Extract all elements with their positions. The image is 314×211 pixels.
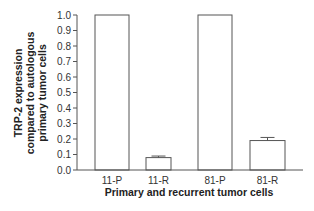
bar-11-P xyxy=(95,15,129,170)
x-axis-title: Primary and recurrent tumor cells xyxy=(105,186,274,198)
x-tick-label: 11-R xyxy=(148,175,169,186)
y-axis: 0.00.10.20.30.40.50.60.70.80.91.0 xyxy=(57,10,77,176)
bar-81-P xyxy=(198,15,232,170)
y-tick-label: 0.5 xyxy=(57,87,71,98)
x-axis: 11-P11-R81-P81-R xyxy=(77,170,303,186)
y-tick-label: 0.3 xyxy=(57,118,71,129)
y-tick-label: 0.2 xyxy=(57,134,71,145)
x-tick-label: 81-R xyxy=(257,175,279,186)
y-tick-label: 0.6 xyxy=(57,72,71,83)
y-axis-title-line: compared to autologous xyxy=(24,32,36,155)
y-tick-label: 1.0 xyxy=(57,10,71,21)
y-tick-label: 0.4 xyxy=(57,103,71,114)
x-tick-label: 11-P xyxy=(102,175,123,186)
y-axis-title-line: primary tumor cells xyxy=(36,44,48,142)
y-tick-label: 0.1 xyxy=(57,149,71,160)
y-tick-label: 0.0 xyxy=(57,165,71,176)
y-tick-label: 0.8 xyxy=(57,41,71,52)
y-tick-label: 0.9 xyxy=(57,25,71,36)
bar-11-R xyxy=(146,156,171,170)
bars xyxy=(95,15,285,170)
x-tick-label: 81-P xyxy=(204,175,225,186)
bar-81-R xyxy=(250,137,285,170)
y-axis-title-line: TRP-2 expression xyxy=(12,49,24,138)
y-axis-title: TRP-2 expressioncompared to autologouspr… xyxy=(12,32,48,155)
y-tick-label: 0.7 xyxy=(57,56,71,67)
bar-chart: TRP-2 expressioncompared to autologouspr… xyxy=(0,0,314,211)
